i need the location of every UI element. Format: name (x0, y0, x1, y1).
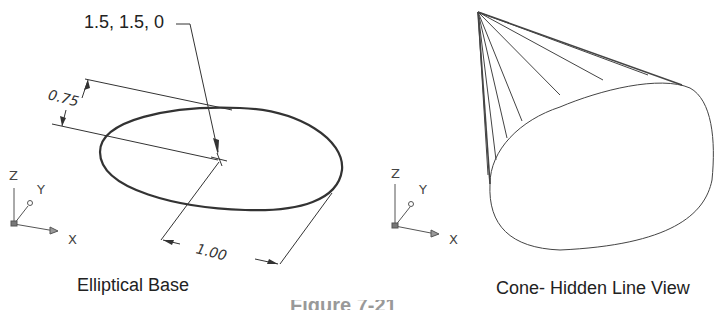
center-coordinate-label: 1.5, 1.5, 0 (84, 12, 164, 33)
elliptical-base-title: Elliptical Base (77, 275, 189, 296)
drawing-canvas (0, 0, 714, 310)
cone-view-title: Cone- Hidden Line View (496, 278, 690, 299)
ellipse-outline (100, 108, 342, 211)
figure-caption-clipped: Figure 7-21 (290, 300, 397, 310)
ucs-right-x: X (449, 232, 458, 247)
cone-drawing (478, 12, 713, 250)
ucs-right-z: Z (391, 166, 400, 181)
cone-base-ellipse (490, 83, 713, 250)
ucs-left-x: X (68, 232, 77, 247)
ucs-left-y: Y (37, 182, 45, 197)
ucs-icon-left (11, 188, 58, 234)
ucs-right-y: Y (419, 182, 427, 197)
elliptical-base-drawing (52, 24, 342, 264)
ucs-left-z: Z (9, 168, 18, 183)
ucs-icon-right (392, 184, 439, 237)
